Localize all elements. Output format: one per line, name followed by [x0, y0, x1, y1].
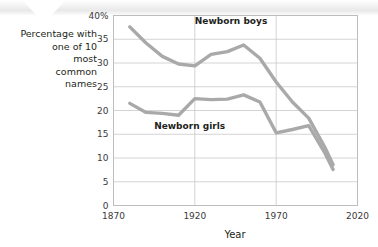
y-tick-25: 25: [97, 82, 108, 92]
y-tick-20: 20: [97, 106, 109, 116]
series-label-newborn-boys: Newborn boys: [195, 16, 267, 26]
y-axis-tick-labels: 0510152025303540%: [88, 11, 108, 211]
y-tick-30: 30: [97, 58, 109, 68]
y-tick-10: 10: [97, 153, 109, 163]
y-tick-15: 15: [97, 129, 108, 139]
x-tick-1970: 1970: [265, 211, 288, 221]
x-tick-1920: 1920: [183, 211, 206, 221]
chart-svg: 0510152025303540% 1870192019702020 Newbo…: [0, 0, 378, 247]
series-label-newborn-girls: Newborn girls: [154, 121, 225, 131]
x-tick-2020: 2020: [346, 211, 369, 221]
y-tick-5: 5: [103, 177, 109, 187]
x-axis-tick-labels: 1870192019702020: [102, 211, 369, 221]
line-chart: 0510152025303540% 1870192019702020 Newbo…: [0, 0, 378, 247]
y-tick-35: 35: [97, 34, 108, 44]
x-axis-title: Year: [223, 229, 246, 240]
y-tick-0: 0: [103, 201, 109, 211]
y-tick-40: 40%: [88, 11, 108, 21]
x-tick-1870: 1870: [102, 211, 125, 221]
